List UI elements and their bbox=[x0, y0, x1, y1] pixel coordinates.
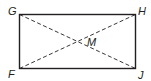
rectangle-fhjg bbox=[20, 15, 136, 69]
intersection-label-m: M bbox=[87, 36, 97, 48]
vertex-label-f: F bbox=[8, 68, 16, 80]
vertex-label-h: H bbox=[138, 5, 146, 17]
rectangle-diagram: G H F J M bbox=[0, 0, 151, 81]
diagonal-fh bbox=[20, 15, 136, 69]
vertex-label-g: G bbox=[8, 5, 17, 17]
vertex-label-j: J bbox=[137, 69, 144, 81]
diagonal-gj bbox=[20, 15, 136, 69]
